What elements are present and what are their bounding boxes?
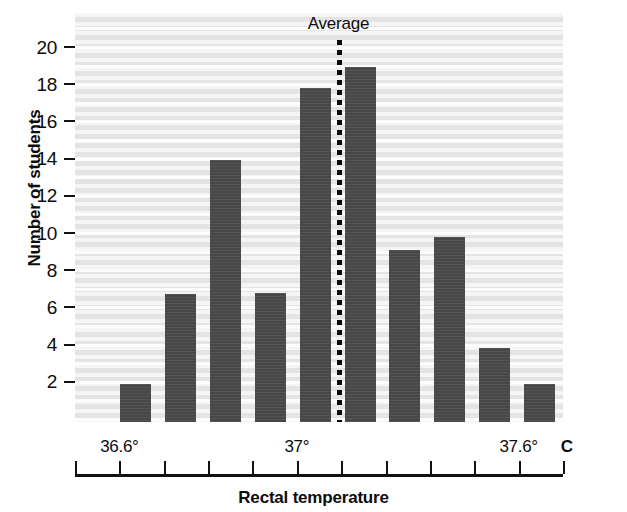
bar-chart-figure: Number of students 2468101214161820 Aver… bbox=[0, 0, 627, 512]
x-axis-tick-mark bbox=[252, 461, 254, 474]
y-axis-tick-label: 12 bbox=[36, 186, 64, 205]
x-axis-tick-mark bbox=[164, 461, 166, 474]
x-axis-tick-mark bbox=[563, 461, 565, 474]
y-axis-tick-label: 20 bbox=[36, 38, 64, 57]
plot-area bbox=[75, 13, 563, 422]
y-axis-tick-mark bbox=[64, 195, 75, 197]
y-axis-tick-label: 6 bbox=[47, 298, 64, 317]
y-axis-tick-label: 16 bbox=[36, 112, 64, 131]
y-axis-tick-mark bbox=[64, 83, 75, 85]
x-axis-tick-label: 37° bbox=[284, 437, 309, 457]
bar bbox=[434, 237, 465, 422]
bar bbox=[165, 294, 196, 422]
x-axis-tick-mark bbox=[75, 461, 77, 474]
x-axis-title: Rectal temperature bbox=[0, 488, 627, 508]
y-axis-tick-mark bbox=[64, 158, 75, 160]
y-axis-ticks: 2468101214161820 bbox=[0, 0, 75, 512]
x-axis-line bbox=[75, 474, 563, 477]
x-axis-tick-mark bbox=[208, 461, 210, 474]
bar bbox=[255, 293, 286, 422]
bar bbox=[479, 348, 510, 422]
y-axis-tick-mark bbox=[64, 269, 75, 271]
y-axis-tick-mark bbox=[64, 306, 75, 308]
x-axis-tick-label: 36.6° bbox=[100, 437, 138, 457]
y-axis-tick-mark bbox=[64, 381, 75, 383]
bar bbox=[300, 88, 331, 422]
average-line bbox=[337, 40, 342, 422]
y-axis-tick-mark bbox=[64, 46, 75, 48]
y-axis-tick-label: 10 bbox=[36, 224, 64, 243]
y-axis-tick-mark bbox=[64, 232, 75, 234]
y-axis-tick-label: 14 bbox=[36, 149, 64, 168]
y-axis-tick-label: 4 bbox=[47, 335, 64, 354]
x-axis-unit-label: C bbox=[561, 437, 573, 457]
y-axis-tick-label: 8 bbox=[47, 261, 64, 280]
bar bbox=[120, 384, 151, 422]
x-axis-tick-mark bbox=[519, 461, 521, 474]
y-axis-tick-label: 18 bbox=[36, 75, 64, 94]
x-axis-tick-mark bbox=[386, 461, 388, 474]
bar bbox=[345, 67, 376, 422]
x-axis-tick-mark bbox=[341, 461, 343, 474]
average-label: Average bbox=[308, 14, 370, 34]
y-axis-tick-mark bbox=[64, 344, 75, 346]
x-axis-tick-mark bbox=[430, 461, 432, 474]
bar bbox=[389, 250, 420, 422]
x-axis-tick-label: 37.6° bbox=[499, 437, 537, 457]
bar bbox=[524, 384, 555, 422]
y-axis-tick-mark bbox=[64, 120, 75, 122]
y-axis-tick-label: 2 bbox=[47, 372, 64, 391]
bar bbox=[210, 160, 241, 422]
x-axis-tick-mark bbox=[119, 461, 121, 474]
x-axis-tick-mark bbox=[297, 461, 299, 474]
x-axis-tick-mark bbox=[474, 461, 476, 474]
